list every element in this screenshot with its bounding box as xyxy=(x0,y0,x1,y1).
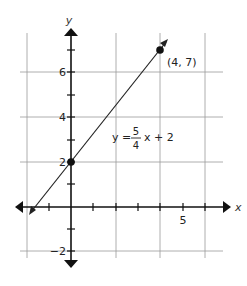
y-tick-label-neg2: −2 xyxy=(50,245,66,258)
equation-prefix: y = xyxy=(112,131,131,144)
y-tick-label-2: 2 xyxy=(59,156,66,169)
y-axis-down-arrow-icon xyxy=(64,260,78,268)
equation-label: y = 5 4 x + 2 xyxy=(112,126,174,151)
x-axis-label: x xyxy=(234,201,242,214)
y-axis xyxy=(64,28,78,268)
x-tick-label-5: 5 xyxy=(180,214,187,227)
x-axis-left-arrow-icon xyxy=(15,201,23,213)
point-label: (4, 7) xyxy=(167,56,197,69)
x-axis xyxy=(15,201,231,213)
equation-numerator: 5 xyxy=(133,126,139,137)
line-series xyxy=(29,39,168,215)
y-tick-label-6: 6 xyxy=(59,66,66,79)
y-axis-up-arrow-icon xyxy=(64,28,78,36)
y-tick-label-4: 4 xyxy=(59,111,66,124)
y-axis-label: y xyxy=(65,14,73,27)
point-y-intercept xyxy=(67,158,75,166)
equation-denominator: 4 xyxy=(133,140,139,151)
x-axis-right-arrow-icon xyxy=(223,201,231,213)
point-4-7 xyxy=(156,46,164,54)
coordinate-plane: 5 6 4 2 −2 x y (4, 7) y = 5 4 x + 2 xyxy=(0,0,247,286)
equation-suffix: x + 2 xyxy=(144,131,174,144)
line-arrow-up-icon xyxy=(160,39,168,47)
